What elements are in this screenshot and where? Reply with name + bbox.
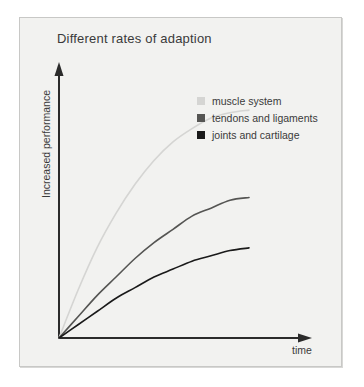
plot-area — [20, 18, 343, 368]
legend-item: muscle system — [197, 92, 318, 109]
legend-swatch-icon — [197, 97, 205, 105]
legend-label: muscle system — [212, 95, 281, 107]
legend-swatch-icon — [197, 131, 205, 139]
series-line — [59, 248, 249, 338]
legend-item: joints and cartilage — [197, 126, 318, 143]
y-axis-label: Increased performance — [40, 89, 52, 199]
y-axis-arrowhead — [55, 62, 64, 76]
legend-label: tendons and ligaments — [212, 112, 318, 124]
legend-item: tendons and ligaments — [197, 109, 318, 126]
series-curves — [59, 110, 249, 338]
series-line — [59, 110, 249, 338]
legend-swatch-icon — [197, 114, 205, 122]
x-axis-label: time — [292, 344, 312, 356]
chart-legend: muscle systemtendons and ligamentsjoints… — [197, 92, 318, 143]
x-axis-arrowhead — [298, 334, 312, 343]
chart-figure: Different rates of adaption Increased pe… — [19, 17, 342, 367]
legend-label: joints and cartilage — [212, 129, 300, 141]
